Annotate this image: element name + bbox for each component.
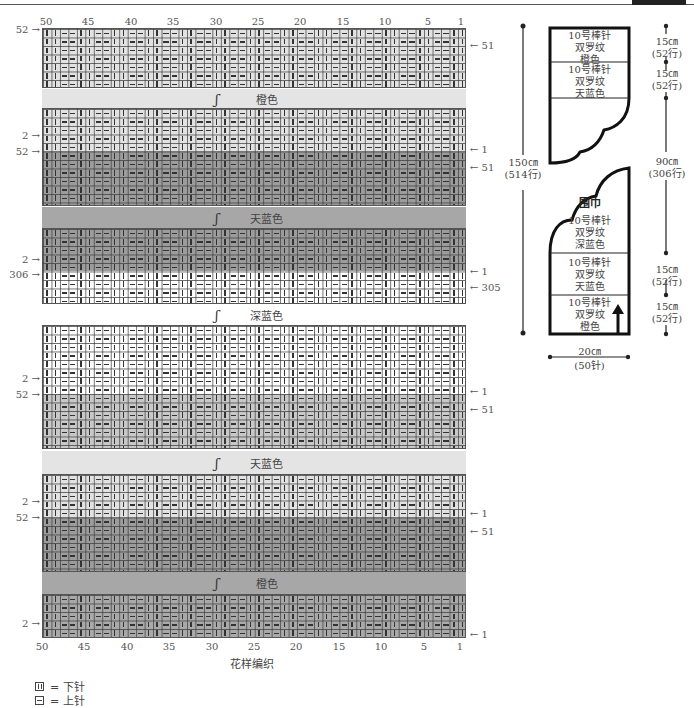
row-label-left: 52 → bbox=[6, 389, 40, 400]
chart-block-2 bbox=[42, 108, 466, 206]
swirl-icon: ʃ bbox=[215, 455, 219, 470]
band-label: 天蓝色 bbox=[250, 210, 283, 226]
col-num: 35 bbox=[167, 16, 180, 27]
row-label-left: 2 → bbox=[6, 496, 40, 507]
swirl-icon: ʃ bbox=[215, 91, 219, 106]
row-label-right: ← 51 bbox=[470, 404, 494, 415]
row-label-right: ← 1 bbox=[470, 144, 488, 155]
col-num: 1 bbox=[458, 16, 464, 27]
col-num: 50 bbox=[40, 16, 53, 27]
width-label: 20㎝ bbox=[550, 346, 629, 358]
swirl-icon: ʃ bbox=[215, 210, 219, 225]
width-stitches-label: (50针) bbox=[550, 360, 629, 372]
color-band-orange-bottom: ʃ 橙色 bbox=[42, 572, 466, 594]
knit-stitch-icon bbox=[35, 682, 44, 691]
col-num: 30 bbox=[210, 16, 223, 27]
band-label: 橙色 bbox=[256, 575, 278, 591]
col-num: 40 bbox=[121, 641, 134, 652]
column-numbers-bottom: 50 45 40 35 30 25 20 15 10 5 1 bbox=[42, 641, 466, 653]
col-num: 35 bbox=[163, 641, 176, 652]
row-label-right: ← 305 bbox=[470, 282, 501, 293]
col-num: 10 bbox=[379, 16, 392, 27]
col-num: 30 bbox=[206, 641, 219, 652]
row-label-left: 2 → bbox=[6, 130, 40, 141]
chart-block-5 bbox=[42, 474, 466, 572]
col-num: 45 bbox=[78, 641, 91, 652]
dim-label: 15㎝(52行) bbox=[644, 264, 690, 288]
section-label-skyblue-top: 10号棒针双罗纹天蓝色 bbox=[550, 64, 629, 100]
col-num: 40 bbox=[125, 16, 138, 27]
col-num: 5 bbox=[425, 16, 431, 27]
section-label-orange-top: 10号棒针双罗纹橙色 bbox=[550, 30, 629, 66]
row-label-right: ← 1 bbox=[470, 266, 488, 277]
col-num: 15 bbox=[333, 641, 346, 652]
chart-block-4 bbox=[42, 325, 466, 449]
column-numbers-top: 50 45 40 35 30 25 20 15 10 5 1 bbox=[42, 16, 466, 28]
section-label-orange-bottom: 10号棒针双罗纹橙色 bbox=[550, 297, 629, 333]
col-num: 20 bbox=[290, 641, 303, 652]
legend-purl: = 上针 bbox=[35, 692, 85, 708]
chart-block-3 bbox=[42, 228, 466, 304]
chart-block-6 bbox=[42, 594, 466, 638]
chart-title: 花样编织 bbox=[230, 655, 274, 671]
col-num: 20 bbox=[294, 16, 307, 27]
row-label-left: 2 → bbox=[6, 254, 40, 265]
swirl-icon: ʃ bbox=[215, 308, 219, 323]
chart-block-1 bbox=[42, 28, 466, 88]
legend-text: = 上针 bbox=[50, 692, 85, 708]
band-label: 橙色 bbox=[256, 91, 278, 107]
row-label-right: ← 51 bbox=[470, 526, 494, 537]
row-label-left: 52 → bbox=[6, 146, 40, 157]
col-num: 15 bbox=[337, 16, 350, 27]
color-band-navy: ʃ 深蓝色 bbox=[42, 306, 466, 324]
col-num: 5 bbox=[421, 641, 427, 652]
row-label-left: 52 → bbox=[6, 24, 40, 35]
col-num: 45 bbox=[82, 16, 95, 27]
row-label-left: 2 → bbox=[6, 373, 40, 384]
col-num: 25 bbox=[248, 641, 261, 652]
col-num: 10 bbox=[375, 641, 388, 652]
col-num: 1 bbox=[457, 641, 463, 652]
swirl-icon: ʃ bbox=[215, 576, 219, 591]
dim-label: 15㎝(52行) bbox=[644, 301, 690, 325]
row-label-right: ← 1 bbox=[470, 386, 488, 397]
row-label-left: 306 → bbox=[6, 269, 40, 280]
schematic-title: 围巾 bbox=[570, 198, 610, 210]
stitch-chart: 50 45 40 35 30 25 20 15 10 5 1 52 → ← 51… bbox=[0, 0, 500, 702]
row-label-left: 2 → bbox=[6, 618, 40, 629]
col-num: 50 bbox=[36, 641, 49, 652]
dim-label: 15㎝(52行) bbox=[644, 36, 690, 60]
color-band-orange-top: ʃ 橙色 bbox=[42, 89, 466, 108]
col-num: 25 bbox=[252, 16, 265, 27]
total-length-label: 150㎝(514行) bbox=[500, 157, 546, 181]
band-label: 天蓝色 bbox=[250, 455, 283, 471]
color-band-skyblue-top: ʃ 天蓝色 bbox=[42, 207, 466, 228]
band-label: 深蓝色 bbox=[250, 307, 283, 323]
row-label-right: ← 1 bbox=[470, 508, 488, 519]
scarf-schematic: 10号棒针双罗纹橙色 10号棒针双罗纹天蓝色 围巾 10号棒针双罗纹深蓝色 10… bbox=[500, 0, 694, 702]
section-label-skyblue-bottom: 10号棒针双罗纹天蓝色 bbox=[550, 257, 629, 293]
dim-label: 15㎝(52行) bbox=[644, 68, 690, 92]
row-label-right: ← 51 bbox=[470, 40, 494, 51]
row-label-right: ← 51 bbox=[470, 162, 494, 173]
row-label-left: 52 → bbox=[6, 512, 40, 523]
dim-label: 90㎝(306行) bbox=[644, 156, 690, 180]
purl-stitch-icon bbox=[35, 696, 44, 705]
section-label-navy: 10号棒针双罗纹深蓝色 bbox=[550, 215, 629, 251]
row-label-right: ← 1 bbox=[470, 629, 488, 640]
color-band-skyblue-bottom: ʃ 天蓝色 bbox=[42, 451, 466, 474]
